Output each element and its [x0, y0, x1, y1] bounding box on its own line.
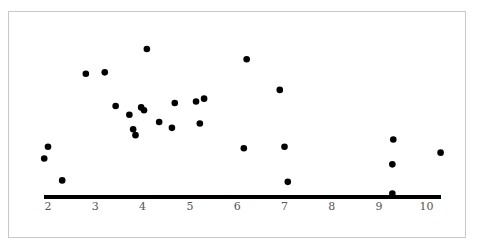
data-point: [130, 126, 137, 133]
data-point: [197, 120, 204, 127]
data-point: [243, 56, 250, 63]
data-point: [389, 161, 396, 168]
data-point: [390, 136, 397, 143]
x-tick-label: 10: [419, 200, 433, 213]
data-point: [285, 179, 292, 186]
data-point: [389, 190, 396, 197]
x-tick-label: 3: [92, 200, 99, 213]
data-point: [193, 98, 200, 105]
data-point: [281, 144, 288, 151]
x-tick-label: 8: [328, 200, 335, 213]
data-point: [144, 46, 151, 53]
data-point: [132, 132, 139, 139]
data-point: [112, 103, 119, 110]
x-tick-labels: 2345678910: [45, 200, 434, 213]
data-point: [101, 69, 108, 76]
data-points: [41, 46, 444, 197]
x-tick-label: 4: [139, 200, 146, 213]
data-point: [41, 155, 48, 162]
data-point: [276, 87, 283, 94]
data-point: [45, 144, 52, 151]
x-tick-label: 7: [281, 200, 288, 213]
data-point: [437, 149, 444, 156]
data-point: [83, 71, 90, 78]
data-point: [126, 111, 133, 118]
x-tick-label: 9: [376, 200, 383, 213]
x-tick-label: 6: [234, 200, 241, 213]
data-point: [141, 107, 148, 114]
data-point: [241, 145, 248, 152]
scatter-plot: 2345678910: [0, 0, 481, 245]
data-point: [59, 177, 66, 184]
x-tick-label: 2: [45, 200, 52, 213]
data-point: [169, 125, 176, 132]
x-tick-label: 5: [186, 200, 193, 213]
data-point: [156, 119, 163, 126]
data-point: [171, 100, 178, 107]
data-point: [201, 95, 208, 102]
